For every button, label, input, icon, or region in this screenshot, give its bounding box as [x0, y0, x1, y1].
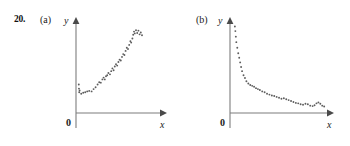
- data-point: [319, 103, 321, 105]
- scatter-plot-a: y x 0: [0, 0, 175, 146]
- data-point: [302, 104, 304, 106]
- data-point: [283, 97, 285, 99]
- data-point: [140, 32, 142, 34]
- data-point: [79, 90, 81, 92]
- x-axis-label-a: x: [159, 119, 165, 130]
- data-point: [88, 90, 90, 92]
- data-point: [317, 101, 319, 103]
- data-point: [125, 50, 127, 52]
- data-point: [95, 86, 97, 88]
- data-point: [237, 52, 239, 54]
- data-point: [106, 74, 108, 76]
- data-point: [253, 86, 255, 88]
- x-axis-label-b: x: [326, 119, 332, 130]
- data-point: [86, 90, 88, 92]
- data-point: [266, 93, 268, 95]
- data-point: [285, 98, 287, 100]
- data-point: [316, 102, 318, 104]
- data-point: [300, 103, 302, 105]
- data-point: [104, 78, 106, 80]
- data-point: [107, 72, 109, 74]
- data-point: [307, 103, 309, 105]
- data-point: [292, 101, 294, 103]
- data-point: [82, 92, 84, 94]
- y-axis-arrowhead-b: [227, 17, 234, 24]
- data-point: [278, 97, 280, 99]
- data-point: [273, 95, 275, 97]
- data-point: [103, 77, 105, 79]
- data-point: [114, 66, 116, 68]
- data-point: [136, 32, 138, 34]
- data-point: [234, 30, 236, 32]
- data-point: [78, 88, 80, 90]
- data-point: [309, 105, 311, 107]
- plot-b-svg: y x 0: [175, 0, 350, 146]
- data-point: [120, 60, 122, 62]
- data-point: [117, 61, 119, 63]
- data-point: [288, 99, 290, 101]
- plot-b-points: [234, 26, 325, 108]
- data-point: [141, 34, 143, 36]
- data-point: [139, 33, 141, 35]
- data-point: [264, 91, 266, 93]
- data-point: [249, 84, 251, 86]
- plot-a-svg: y x 0: [0, 0, 175, 146]
- data-point: [91, 90, 93, 92]
- data-point: [257, 88, 259, 90]
- data-point: [297, 102, 299, 104]
- data-point: [255, 87, 257, 89]
- y-axis-arrowhead-a: [73, 17, 80, 24]
- plot-a-axes: [73, 17, 167, 128]
- plot-a-points: [78, 29, 143, 94]
- data-point: [116, 65, 118, 67]
- data-point: [80, 93, 82, 95]
- data-point: [268, 94, 270, 96]
- data-point: [113, 69, 115, 71]
- data-point: [238, 57, 240, 59]
- data-point: [111, 67, 113, 69]
- plot-b-axes: [227, 17, 334, 128]
- data-point: [132, 34, 134, 36]
- y-axis-label-b: y: [217, 15, 223, 26]
- data-point: [271, 95, 273, 97]
- data-point: [235, 36, 237, 38]
- origin-label-a: 0: [66, 117, 71, 128]
- data-point: [130, 42, 132, 44]
- data-point: [110, 70, 112, 72]
- data-point: [240, 66, 242, 68]
- data-point: [323, 106, 325, 108]
- scatter-plot-b: y x 0: [175, 0, 350, 146]
- data-point: [276, 96, 278, 98]
- data-point: [134, 32, 136, 34]
- figure-canvas: 20. (a) (b) y x 0 y x 0: [0, 0, 350, 146]
- data-point: [133, 31, 135, 33]
- data-point: [78, 84, 80, 86]
- data-point: [251, 85, 253, 87]
- data-point: [244, 77, 246, 79]
- data-point: [314, 104, 316, 106]
- data-point: [127, 48, 129, 50]
- y-axis-label-a: y: [63, 15, 69, 26]
- data-point: [290, 100, 292, 102]
- data-point: [121, 56, 123, 58]
- data-point: [321, 105, 323, 107]
- origin-label-b: 0: [220, 117, 225, 128]
- data-point: [100, 82, 102, 84]
- data-point: [101, 78, 103, 80]
- data-point: [128, 44, 130, 46]
- data-point: [98, 81, 100, 83]
- data-point: [261, 90, 263, 92]
- data-point: [259, 89, 261, 91]
- data-point: [243, 74, 245, 76]
- data-point: [135, 29, 137, 31]
- data-point: [137, 30, 139, 32]
- data-point: [97, 84, 99, 86]
- data-point: [295, 102, 297, 104]
- data-point: [239, 61, 241, 63]
- data-point: [241, 70, 243, 72]
- data-point: [78, 91, 80, 93]
- data-point: [312, 105, 314, 107]
- data-point: [234, 26, 236, 28]
- data-point: [131, 38, 133, 40]
- data-point: [280, 98, 282, 100]
